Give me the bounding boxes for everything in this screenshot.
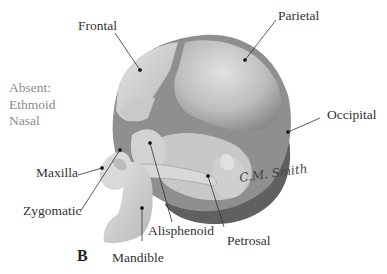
absent-heading: Absent: [9, 80, 56, 97]
label-occipital: Occipital [327, 108, 376, 122]
absent-bones-note: Absent: Ethmoid Nasal [9, 80, 56, 130]
label-parietal: Parietal [278, 9, 319, 23]
label-frontal: Frontal [78, 19, 117, 33]
absent-item-ethmoid: Ethmoid [9, 97, 56, 114]
label-mandible: Mandible [112, 251, 164, 265]
panel-label: B [77, 247, 88, 265]
absent-item-nasal: Nasal [9, 113, 56, 130]
label-maxilla: Maxilla [36, 166, 78, 180]
label-petrosal: Petrosal [227, 234, 271, 248]
skull-diagram: C.M. Smith Absent: Ethmoid Nasal Frontal… [0, 0, 387, 274]
label-alisphenoid: Alisphenoid [148, 224, 214, 238]
label-zygomatic: Zygomatic [23, 204, 81, 218]
